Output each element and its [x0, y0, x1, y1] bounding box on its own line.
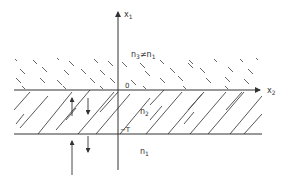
x2-axis-label: x2	[267, 86, 276, 96]
middle-layer-label: n2	[140, 107, 149, 117]
middle-layer-hatching	[14, 90, 262, 134]
bottom-region-label: n1	[140, 147, 149, 157]
top-region-hatching	[15, 58, 258, 89]
origin-label: 0	[125, 82, 129, 90]
x1-axis-label: x1	[124, 10, 133, 20]
top-region-label: n3≠n1	[131, 50, 156, 60]
layered-medium-diagram: x1 x2 n3≠n1 0 n2 −T n1	[0, 0, 291, 187]
thickness-label: −T	[120, 126, 131, 134]
